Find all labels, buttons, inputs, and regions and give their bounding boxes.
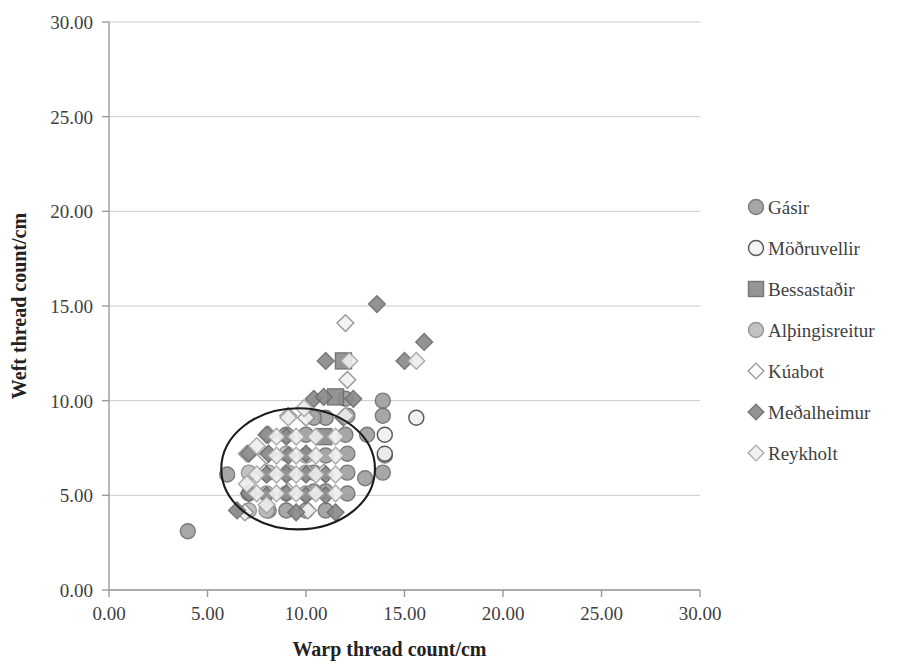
x-axis-title: Warp thread count/cm (292, 638, 486, 661)
chart-canvas: 0.005.0010.0015.0020.0025.0030.000.005.0… (0, 0, 904, 665)
data-point (375, 465, 390, 480)
data-point (409, 410, 424, 425)
data-point (337, 315, 354, 332)
legend-item-k-abot[interactable]: Kúabot (748, 361, 825, 382)
x-tick-label: 10.00 (285, 603, 328, 624)
data-point (408, 353, 425, 370)
y-tick-label: 20.00 (50, 201, 93, 222)
data-points (180, 296, 432, 539)
legend: GásirMöðruvellirBessastaðirAlþingisreitu… (748, 197, 875, 464)
x-tick-label: 25.00 (580, 603, 623, 624)
legend-label: Meðalheimur (768, 402, 871, 423)
legend-item-al-ingisreitur[interactable]: Alþingisreitur (749, 320, 876, 341)
y-tick-label: 25.00 (50, 107, 93, 128)
legend-marker-icon (748, 363, 764, 379)
legend-item-m-ruvellir[interactable]: Möðruvellir (749, 238, 861, 259)
axes (102, 22, 700, 597)
data-point (377, 446, 392, 461)
data-point (339, 371, 356, 388)
x-tick-label: 5.00 (191, 603, 224, 624)
scatter-chart: 0.005.0010.0015.0020.0025.0030.000.005.0… (0, 0, 904, 665)
gridlines (109, 22, 700, 590)
y-tick-label: 5.00 (60, 485, 93, 506)
y-tick-label: 30.00 (50, 12, 93, 33)
legend-marker-icon (749, 241, 764, 256)
legend-label: Kúabot (768, 361, 825, 382)
y-tick-label: 10.00 (50, 391, 93, 412)
data-point (180, 524, 195, 539)
x-tick-label: 0.00 (92, 603, 125, 624)
y-axis-title: Weft thread count/cm (8, 213, 30, 400)
x-tick-label: 30.00 (679, 603, 722, 624)
legend-label: Bessastaðir (768, 279, 855, 300)
y-tick-label: 15.00 (50, 296, 93, 317)
legend-marker-icon (748, 445, 764, 461)
data-point (375, 393, 390, 408)
x-tick-label: 15.00 (383, 603, 426, 624)
legend-item-g-sir[interactable]: Gásir (749, 197, 810, 218)
data-point (377, 427, 392, 442)
data-point (358, 471, 373, 486)
legend-item-me-alheimur[interactable]: Meðalheimur (748, 402, 871, 423)
legend-item-bessasta-ir[interactable]: Bessastaðir (749, 279, 856, 300)
data-point (416, 334, 433, 351)
data-point (280, 409, 297, 426)
legend-marker-icon (749, 200, 764, 215)
legend-label: Reykholt (768, 443, 838, 464)
legend-marker-icon (748, 404, 764, 420)
tick-labels: 0.005.0010.0015.0020.0025.0030.000.005.0… (50, 12, 721, 624)
legend-label: Alþingisreitur (768, 320, 875, 341)
legend-label: Gásir (768, 197, 810, 218)
y-tick-label: 0.00 (60, 580, 93, 601)
x-tick-label: 20.00 (482, 603, 525, 624)
legend-marker-icon (749, 323, 764, 338)
data-point (317, 353, 334, 370)
data-point (369, 296, 386, 313)
data-point (375, 408, 390, 423)
legend-item-reykholt[interactable]: Reykholt (748, 443, 838, 464)
legend-marker-icon (749, 282, 764, 297)
legend-label: Möðruvellir (768, 238, 860, 259)
